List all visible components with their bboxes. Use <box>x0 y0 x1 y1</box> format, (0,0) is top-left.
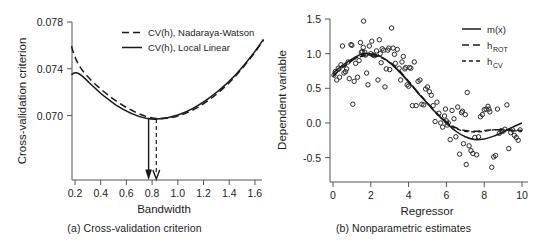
scatter-point <box>442 114 446 118</box>
panel-a-xtick-14: 1.4 <box>222 187 237 199</box>
scatter-point <box>495 107 499 111</box>
panel-cross-validation-criterion: 0.078 0.074 0.070 0.2 0.4 0.6 0.8 1.0 1.… <box>0 0 269 248</box>
panel-b-ytick-15: 1.5 <box>306 13 321 25</box>
scatter-point <box>463 112 467 116</box>
scatter-point <box>487 107 491 111</box>
legend-label-h-rot-sub: ROT <box>493 46 509 53</box>
scatter-point <box>351 102 355 106</box>
panel-b-ylabel: Dependent variable <box>276 50 288 150</box>
scatter-point <box>461 142 465 146</box>
scatter-point <box>357 58 361 62</box>
scatter-points <box>332 19 523 170</box>
scatter-point <box>452 117 456 121</box>
panel-a-xtick-06: 0.6 <box>119 187 134 199</box>
panel-b-xlabel: Regressor <box>400 205 453 217</box>
scatter-point <box>448 137 452 141</box>
scatter-point <box>465 90 469 94</box>
legend-label-h-rot: h <box>487 40 492 51</box>
panel-a-plot: 0.078 0.074 0.070 0.2 0.4 0.6 0.8 1.0 1.… <box>0 0 269 248</box>
scatter-point <box>457 152 461 156</box>
panel-b-ytick-05: 0.5 <box>306 82 321 94</box>
panel-a-ytick-0070: 0.070 <box>37 110 63 122</box>
scatter-point <box>443 107 447 111</box>
scatter-point <box>376 78 380 82</box>
panel-b-x-ticks <box>333 182 522 187</box>
panel-b-y-ticks <box>325 19 330 158</box>
scatter-point <box>507 146 511 150</box>
panel-a-ylabel: Cross-validation criterion <box>16 38 28 165</box>
scatter-point <box>435 100 439 104</box>
scatter-point <box>383 85 387 89</box>
scatter-point <box>433 119 437 123</box>
legend-label-h-cv-sub: CV <box>493 62 503 69</box>
scatter-point <box>358 40 362 44</box>
legend-label-mx: m(x) <box>487 24 506 35</box>
scatter-point <box>355 75 359 79</box>
panel-a-xtick-04: 0.4 <box>93 187 108 199</box>
panel-b-ytick-00: 0.0 <box>306 117 321 129</box>
panel-a-x-ticks <box>75 180 255 185</box>
scatter-point <box>337 75 341 79</box>
panel-nonparametric-estimates: 1.5 1.0 0.5 0.0 -0.5 0 2 4 6 8 10 Regres… <box>269 0 538 248</box>
panel-b-legend: m(x) h ROT h CV <box>462 24 509 69</box>
scatter-point <box>392 52 396 56</box>
scatter-point <box>377 38 381 42</box>
scatter-point <box>370 39 374 43</box>
panel-a-xtick-12: 1.2 <box>196 187 211 199</box>
panel-b-ytick-10: 1.0 <box>306 48 321 60</box>
scatter-point <box>450 108 454 112</box>
arrow-local-linear-optimum <box>145 119 152 180</box>
panel-b-plot: 1.5 1.0 0.5 0.0 -0.5 0 2 4 6 8 10 Regres… <box>269 0 538 248</box>
panel-b-xtick-2: 2 <box>368 189 374 201</box>
scatter-point <box>412 60 416 64</box>
scatter-point <box>344 67 348 71</box>
scatter-point <box>379 60 383 64</box>
panel-a-xtick-08: 0.8 <box>145 187 160 199</box>
panel-a-ytick-0074: 0.074 <box>37 63 63 75</box>
scatter-point <box>366 83 370 87</box>
panel-b-ytick-m05: -0.5 <box>303 152 321 164</box>
scatter-point <box>395 47 399 51</box>
legend-label-h-cv: h <box>487 56 492 67</box>
scatter-point <box>488 110 492 114</box>
scatter-point <box>364 71 368 75</box>
scatter-point <box>456 105 460 109</box>
legend-label-nadaraya-watson: CV(h), Nadaraya-Watson <box>148 27 254 38</box>
panel-b-xtick-0: 0 <box>330 189 336 201</box>
scatter-point <box>505 103 509 107</box>
panel-a-ytick-0078: 0.078 <box>37 16 63 28</box>
scatter-point <box>361 19 365 23</box>
panel-a-xtick-02: 0.2 <box>68 187 83 199</box>
panel-b-caption: (b) Nonparametric estimates <box>269 222 538 234</box>
panel-b-xtick-4: 4 <box>406 189 412 201</box>
scatter-point <box>467 144 471 148</box>
scatter-point <box>490 165 494 169</box>
panel-a-caption: (a) Cross-validation criterion <box>0 222 269 234</box>
figure-container: 0.078 0.074 0.070 0.2 0.4 0.6 0.8 1.0 1.… <box>0 0 538 248</box>
scatter-point <box>352 79 356 83</box>
legend-label-local-linear: CV(h), Local Linear <box>148 42 230 53</box>
scatter-point <box>440 125 444 129</box>
scatter-point <box>401 54 405 58</box>
scatter-point <box>347 76 351 80</box>
panel-a-xlabel: Bandwidth <box>137 203 191 215</box>
panel-a-y-ticks <box>67 22 72 116</box>
scatter-point <box>400 60 404 64</box>
panel-b-xtick-6: 6 <box>443 189 449 201</box>
panel-a-xtick-10: 1.0 <box>170 187 185 199</box>
panel-b-xtick-8: 8 <box>481 189 487 201</box>
scatter-point <box>361 45 365 49</box>
scatter-point <box>340 44 344 48</box>
scatter-point <box>389 26 393 30</box>
scatter-point <box>454 135 458 139</box>
panel-b-axes <box>330 19 528 182</box>
panel-a-legend: CV(h), Nadaraya-Watson CV(h), Local Line… <box>122 27 254 53</box>
scatter-point <box>464 162 468 166</box>
panel-b-xtick-10: 10 <box>516 189 528 201</box>
scatter-point <box>367 44 371 48</box>
arrow-nadaraya-watson-optimum <box>153 119 160 179</box>
panel-a-xtick-16: 1.6 <box>248 187 263 199</box>
scatter-point <box>398 78 402 82</box>
